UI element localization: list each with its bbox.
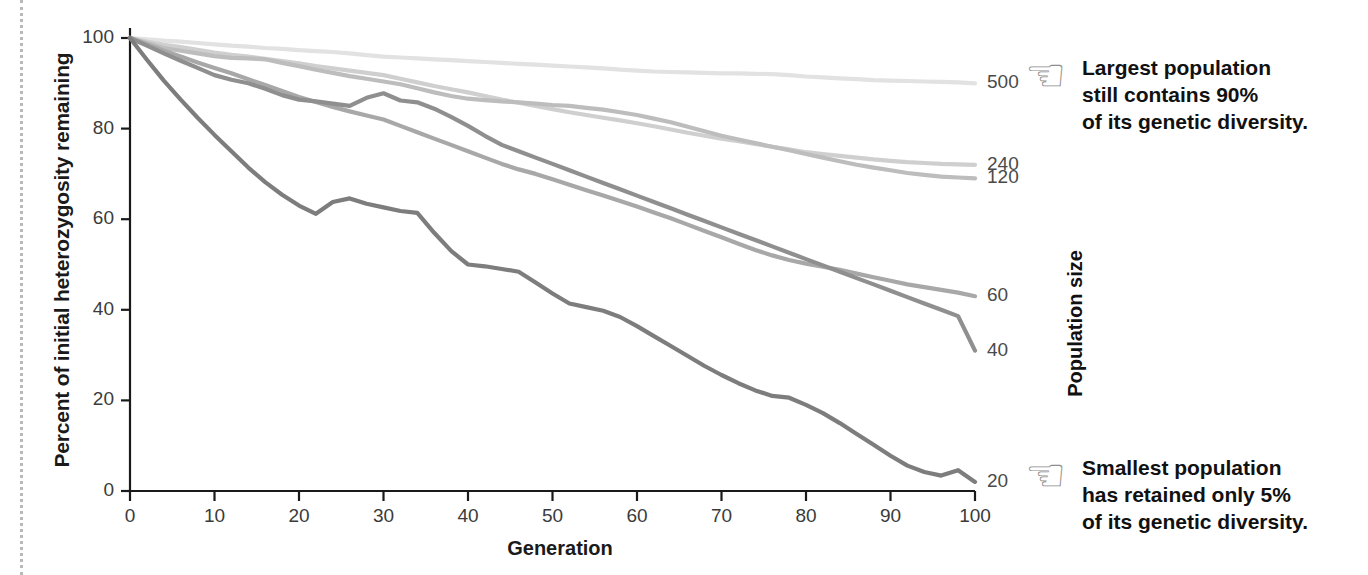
series-end-label-40: 40 [987,339,1008,361]
callout-smallest-population-text: Smallest population has retained only 5%… [1082,455,1308,536]
series-line-40 [130,38,975,351]
pointing-hand-left-icon: ☜ [1012,59,1078,95]
y-tick-label: 40 [68,298,114,320]
x-tick-label: 100 [952,505,998,527]
legend-title: Population size [1064,214,1087,434]
x-tick-label: 80 [783,505,829,527]
callout-largest-population: ☜ Largest population still contains 90% … [1012,55,1308,136]
chart-page: Percent of initial heterozygosity remain… [0,0,1368,575]
x-tick-label: 60 [614,505,660,527]
y-tick-label: 20 [68,388,114,410]
callout-smallest-population: ☜ Smallest population has retained only … [1012,455,1308,536]
y-tick-label: 80 [68,117,114,139]
series-end-label-120: 120 [987,166,1019,188]
x-tick-label: 30 [361,505,407,527]
pointing-hand-left-icon: ☜ [1012,459,1078,495]
y-tick-label: 60 [68,207,114,229]
series-end-label-20: 20 [987,470,1008,492]
x-tick-label: 40 [445,505,491,527]
x-tick-label: 10 [192,505,238,527]
y-tick-label: 100 [68,26,114,48]
series-end-label-60: 60 [987,284,1008,306]
x-tick-label: 90 [868,505,914,527]
x-tick-label: 0 [107,505,153,527]
x-tick-label: 70 [699,505,745,527]
callout-largest-population-text: Largest population still contains 90% of… [1082,55,1308,136]
y-tick-label: 0 [68,479,114,501]
x-tick-label: 20 [276,505,322,527]
x-tick-label: 50 [530,505,576,527]
x-axis-title: Generation [430,537,690,560]
